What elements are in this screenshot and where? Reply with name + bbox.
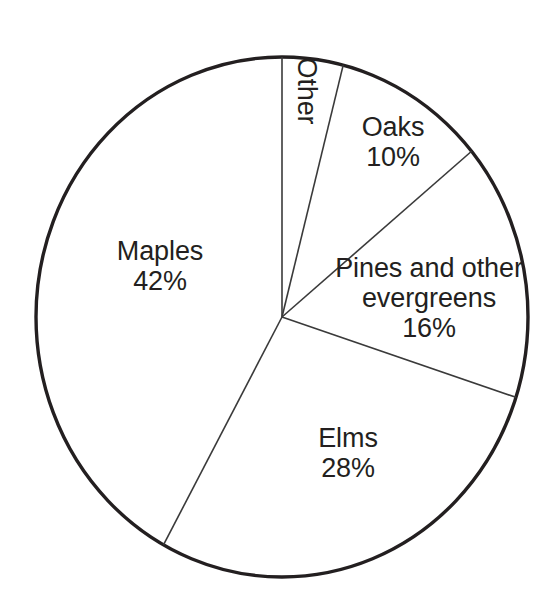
pie-chart-canvas (0, 0, 553, 608)
pie-chart: Maples 42% Oaks 10% Pines and other ever… (0, 0, 553, 608)
